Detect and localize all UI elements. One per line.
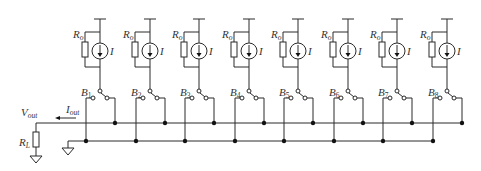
vout-label: Vout	[21, 106, 38, 120]
rl-label: RL	[18, 136, 30, 150]
output-labels: Vout Iout RL	[0, 0, 481, 171]
iout-label: Iout	[65, 103, 80, 117]
